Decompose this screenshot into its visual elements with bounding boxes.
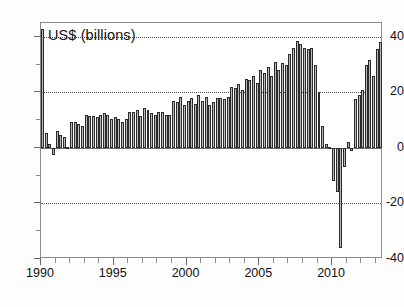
x-tick-minor [287,258,288,263]
x-tick-minor [84,258,85,263]
y-tick-minor [36,119,41,120]
bar [59,135,62,147]
x-tick-minor [273,258,274,263]
bar [205,97,208,148]
y-tick-minor [36,175,41,176]
x-tick-minor [142,258,143,263]
x-tick-label: 1990 [26,266,54,280]
chart-figure: US$ (billions) 40200-20-40 1990199520002… [0,0,404,307]
bar [197,95,200,148]
bar [77,124,80,148]
bar [110,119,113,148]
bar [147,110,150,147]
bar [285,65,288,148]
bar [358,95,361,148]
bar [303,48,306,148]
bar [365,65,368,148]
bar [187,101,190,148]
x-tick-label: 2010 [317,266,345,280]
bar [99,115,102,148]
bar [343,148,346,167]
bar [237,84,240,148]
x-tick-minor [375,258,376,263]
bar [307,49,310,148]
bar [252,76,255,148]
bar [125,119,128,148]
x-tick-minor [215,258,216,263]
y-tick-major [34,202,41,203]
bar [332,148,335,181]
y-tick-major [34,36,41,37]
bar [165,115,168,148]
bar [96,117,99,148]
x-tick-minor [55,258,56,263]
x-tick-major [186,258,187,265]
bar [234,88,237,148]
bar [150,113,153,148]
bar [245,79,248,148]
bar [208,105,211,148]
bar [70,122,73,148]
y-tick-major [34,147,41,148]
bar [219,98,222,148]
x-tick-minor [229,258,230,263]
bar [168,115,171,148]
bar [52,148,55,155]
bar [223,99,226,148]
bar [179,97,182,148]
x-tick-minor [317,258,318,263]
bar [361,90,364,148]
y-tick-label: 20 [370,84,404,98]
x-tick-minor [346,258,347,263]
bar [114,117,117,148]
x-tick-major [40,258,41,265]
x-tick-major [113,258,114,265]
bar [139,116,142,148]
bar [248,80,251,148]
bar [328,147,331,149]
bar [132,112,135,148]
bar [318,92,321,148]
bar [201,101,204,148]
bar [354,99,357,148]
x-tick-major [331,258,332,265]
bar [296,41,299,148]
bar [48,144,51,148]
bar [161,112,164,148]
bar [143,108,146,148]
bar [288,54,291,148]
bar [314,65,317,148]
bar [216,98,219,148]
bar [157,112,160,148]
x-tick-label: 2000 [172,266,200,280]
y-tick-minor [36,230,41,231]
y-tick-label: -20 [370,195,404,209]
bar [74,122,77,148]
bar-series [41,23,381,257]
y-tick-major [34,91,41,92]
bar [212,102,215,148]
bar [292,48,295,148]
x-tick-minor [69,258,70,263]
x-tick-label: 1995 [99,266,127,280]
bar [172,101,175,148]
bar [339,148,342,248]
bar [347,142,350,148]
bar [299,44,302,148]
bar [56,131,59,148]
y-tick-label: 40 [370,29,404,43]
x-tick-minor [171,258,172,263]
x-tick-minor [360,258,361,263]
bar [190,98,193,148]
bar [256,83,259,148]
bar [81,126,84,148]
x-tick-minor [244,258,245,263]
bar [227,97,230,148]
bar [103,113,106,148]
bar [274,62,277,148]
x-tick-major [258,258,259,265]
bar [88,116,91,148]
bar [41,29,44,148]
bar [66,147,69,149]
bar [336,148,339,192]
